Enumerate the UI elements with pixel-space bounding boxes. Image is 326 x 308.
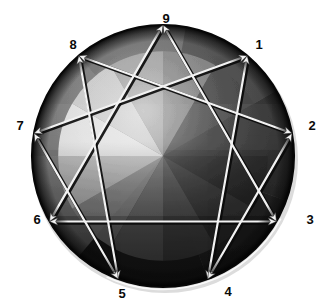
point-label-9: 9 xyxy=(159,12,173,25)
point-label-5: 5 xyxy=(115,287,129,300)
point-label-4: 4 xyxy=(221,285,235,298)
sphere-body xyxy=(0,0,326,308)
sphere-rim-vignette xyxy=(32,25,294,287)
point-label-7: 7 xyxy=(13,119,27,132)
point-label-3: 3 xyxy=(303,213,317,226)
point-label-8: 8 xyxy=(66,38,80,51)
enneagram-figure: 123456789 Enneagram xyxy=(0,0,326,308)
enneagram-canvas xyxy=(0,0,326,308)
point-label-6: 6 xyxy=(30,213,44,226)
point-label-2: 2 xyxy=(305,119,319,132)
point-label-1: 1 xyxy=(252,38,266,51)
